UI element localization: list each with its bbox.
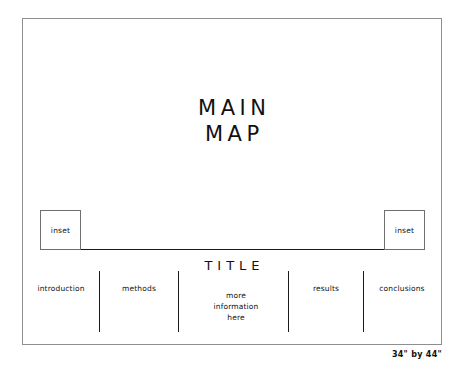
inset-box-left: inset [40,210,81,250]
map-baseline-rule [40,249,425,250]
column-divider-3 [288,271,289,332]
main-map-label-line1: MAIN [22,95,442,121]
inset-right-label: inset [395,226,414,235]
inset-box-right: inset [384,210,425,250]
column-methods-line-1: methods [104,283,174,294]
column-introduction-line-1: introduction [26,283,96,294]
poster-layout-diagram: MAIN MAP inset inset TITLE introduction … [0,0,463,375]
column-more-information: more information here [190,290,282,323]
poster-title: TITLE [22,258,442,273]
main-map-region: MAIN MAP [22,95,442,147]
column-more-information-line-2: information [190,301,282,312]
column-introduction: introduction [26,283,96,294]
column-divider-2 [178,271,179,332]
column-results-line-1: results [294,283,358,294]
column-conclusions-line-1: conclusions [366,283,438,294]
column-results: results [294,283,358,294]
column-conclusions: conclusions [366,283,438,294]
column-divider-4 [363,271,364,332]
column-more-information-line-3: here [190,312,282,323]
column-more-information-line-1: more [190,290,282,301]
column-methods: methods [104,283,174,294]
dimension-caption: 34" by 44" [330,350,442,359]
main-map-label-line2: MAP [22,121,442,147]
inset-left-label: inset [51,226,70,235]
column-divider-1 [99,271,100,332]
